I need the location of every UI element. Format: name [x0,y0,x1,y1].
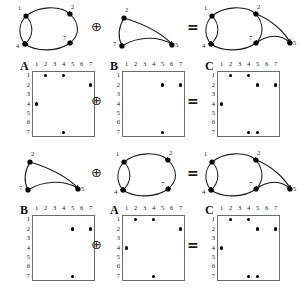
matrix-cell-dot-r4-c1[interactable] [220,246,223,249]
matrix-row-tick-2: 2 [22,226,30,233]
node-label-4: 4 [16,43,19,50]
matrix-row-tick-3: 3 [22,91,30,98]
matrix-cell-dot-r4-c1[interactable] [125,246,128,249]
matrix-grid-C[interactable] [217,215,280,281]
node-4 [120,187,125,192]
matrix-cell-dot-r2-c7[interactable] [89,227,92,230]
node-5 [169,42,174,47]
node-label-5: 5 [293,186,296,193]
equals-operator: = [187,20,199,34]
node-label-7: 7 [113,41,116,48]
edge-4-1 [211,16,218,44]
matrix-col-tick-2: 2 [227,61,235,68]
matrix-row-tick-5: 5 [207,110,215,117]
matrix-cell-dot-r2-c7[interactable] [89,83,92,86]
node-label-1: 1 [116,151,119,158]
node-label-1: 1 [204,151,207,158]
matrix-row-tick-1: 1 [112,216,120,223]
matrix-row-tick-4: 4 [207,101,215,108]
node-1 [23,13,28,18]
matrix-col-tick-3: 3 [236,205,244,212]
matrix-A: A12345671234567 [20,60,97,140]
edge-1-4 [118,162,124,190]
node-7 [25,187,30,192]
matrix-row-tick-7: 7 [112,129,120,136]
matrix-col-tick-1: 1 [33,205,41,212]
matrix-col-tick-6: 6 [168,61,176,68]
matrix-A: A12345671234567 [110,204,187,284]
edge-4-1 [25,16,32,44]
matrix-row-tick-6: 6 [207,263,215,270]
matrix-row-tick-1: 1 [207,216,215,223]
matrix-cell-dot-r2-c7[interactable] [274,227,277,230]
equals-operator-matrix-2: = [187,238,199,252]
matrix-cell-dot-r2-c7[interactable] [179,227,182,230]
node-2 [253,157,258,162]
matrix-col-tick-4: 4 [245,61,253,68]
node-7 [119,43,124,48]
matrix-cell-dot-r2-c7[interactable] [274,83,277,86]
matrix-label-A: A [20,60,29,72]
matrix-cell-dot-r2-c5[interactable] [71,227,74,230]
matrix-row-tick-6: 6 [22,119,30,126]
matrix-cell-dot-r2-c5[interactable] [161,83,164,86]
node-label-5: 5 [293,40,296,47]
matrix-col-tick-5: 5 [69,205,77,212]
matrix-col-tick-1: 1 [123,205,131,212]
node-7 [253,186,258,191]
matrix-col-tick-1: 1 [218,205,226,212]
matrix-grid-B[interactable] [122,71,185,137]
node-1 [209,13,214,18]
node-2 [27,159,32,164]
node-label-2: 2 [71,4,74,11]
matrix-grid-A[interactable] [122,215,185,281]
edge-2-5 [30,162,78,188]
matrix-col-tick-3: 3 [141,205,149,212]
matrix-row-tick-6: 6 [22,263,30,270]
matrix-col-tick-7: 7 [272,205,280,212]
plus-operator-2: ⊕ [91,166,102,179]
matrix-col-tick-3: 3 [51,61,59,68]
node-1 [209,159,214,164]
node-2 [121,15,126,20]
edge-1-4 [20,16,26,44]
edge-2-7 [25,162,30,190]
node-label-1: 1 [18,5,21,12]
matrix-row-tick-2: 2 [112,226,120,233]
row-2-matrices: A12345671234567⊕B12345671234567=C1234567… [0,58,300,146]
edge-7-4 [25,43,70,50]
matrix-grid-C[interactable] [217,71,280,137]
matrix-col-tick-7: 7 [272,61,280,68]
graph-A-2: 1 2 4 7 [106,148,186,202]
matrix-grid-A[interactable] [32,71,95,137]
matrix-col-tick-5: 5 [69,61,77,68]
equals-operator-matrix-1: = [187,94,199,108]
matrix-cell-dot-r4-c1[interactable] [220,102,223,105]
matrix-cell-dot-r2-c5[interactable] [256,227,259,230]
node-2 [67,11,72,16]
node-2 [253,11,258,16]
matrix-cell-dot-r2-c5[interactable] [256,83,259,86]
matrix-label-C: C [205,204,214,216]
matrix-col-tick-6: 6 [263,61,271,68]
node-label-4: 4 [202,189,205,196]
graph-C-svg [198,2,300,56]
matrix-col-tick-7: 7 [87,205,95,212]
matrix-col-tick-4: 4 [150,61,158,68]
graph-B-2: 2 7 5 [14,148,94,198]
edge-2-7 [119,18,124,46]
node-label-2: 2 [169,150,172,157]
matrix-col-tick-5: 5 [159,205,167,212]
edge-2-7 [256,160,262,189]
node-1 [121,159,126,164]
matrix-grid-B[interactable] [32,215,95,281]
node-4 [208,187,213,192]
matrix-B: B12345671234567 [20,204,97,284]
edge-2-5 [124,18,172,44]
node-label-7: 7 [249,35,252,42]
matrix-cell-dot-r2-c7[interactable] [179,83,182,86]
edge-7-4 [211,189,256,196]
matrix-row-tick-2: 2 [207,82,215,89]
node-5 [287,186,292,191]
matrix-cell-dot-r4-c1[interactable] [35,102,38,105]
